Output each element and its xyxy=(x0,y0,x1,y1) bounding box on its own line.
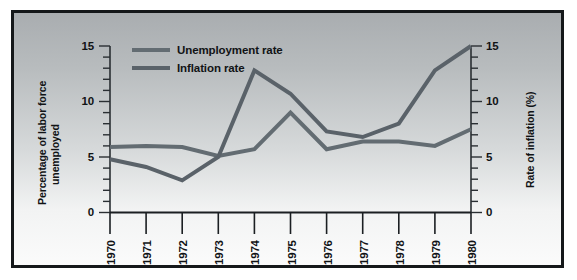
ytick-left-5: 5 xyxy=(68,151,94,163)
ytick-right-5: 5 xyxy=(486,151,512,163)
right-axis-title: Rate of inflation (%) xyxy=(524,92,536,188)
ytick-right-10: 10 xyxy=(486,95,512,107)
legend-label-inflation-rate: Inflation rate xyxy=(177,62,245,74)
xtick-1980: 1980 xyxy=(466,240,478,265)
legend-item-inflation-rate: Inflation rate xyxy=(132,60,283,76)
left-axis-ticks xyxy=(99,46,110,213)
ytick-right-15: 15 xyxy=(486,40,512,52)
legend-label-unemployment-rate: Unemployment rate xyxy=(177,44,283,56)
xtick-1974: 1974 xyxy=(249,240,261,265)
chart-figure: 15 10 5 0 15 10 5 0 1970 1971 1972 1973 … xyxy=(11,10,564,268)
ytick-left-10: 10 xyxy=(68,95,94,107)
line-swatch-icon xyxy=(132,66,170,70)
xtick-1972: 1972 xyxy=(177,240,189,265)
xtick-1973: 1973 xyxy=(213,240,225,265)
chart-legend: Unemployment rate Inflation rate xyxy=(132,42,283,78)
bottom-axis-ticks xyxy=(110,213,471,235)
xtick-1971: 1971 xyxy=(141,240,153,265)
xtick-1976: 1976 xyxy=(322,240,334,265)
ytick-left-15: 15 xyxy=(68,40,94,52)
line-swatch-icon xyxy=(132,48,170,52)
xtick-1979: 1979 xyxy=(430,240,442,265)
right-axis-ticks xyxy=(471,46,482,213)
ytick-right-0: 0 xyxy=(486,206,512,218)
series-line-unemployment-rate xyxy=(110,113,471,156)
xtick-1975: 1975 xyxy=(286,240,298,265)
left-axis-title-line1: Percentage of labor force xyxy=(36,81,48,205)
legend-item-unemployment-rate: Unemployment rate xyxy=(132,42,283,58)
xtick-1977: 1977 xyxy=(358,240,370,265)
xtick-1978: 1978 xyxy=(394,240,406,265)
xtick-1970: 1970 xyxy=(105,240,117,265)
left-axis-title-line2: unemployed xyxy=(49,124,61,185)
chart-canvas xyxy=(14,13,567,271)
ytick-left-0: 0 xyxy=(68,206,94,218)
plot-area: 15 10 5 0 15 10 5 0 1970 1971 1972 1973 … xyxy=(14,13,561,265)
